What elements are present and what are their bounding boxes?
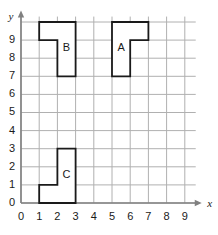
- x-axis-tick-label: 8: [164, 210, 170, 222]
- x-axis-tick-label: 2: [54, 210, 60, 222]
- x-axis-tick-label: 0: [18, 210, 24, 222]
- x-axis-tick-label: 9: [182, 210, 188, 222]
- x-axis-tick-label: 5: [109, 210, 115, 222]
- coordinate-plane-svg: 01234567891234567890xyBAC: [0, 0, 218, 235]
- x-axis-name-label: x: [206, 197, 212, 209]
- x-axis-arrow-icon: [195, 200, 202, 206]
- y-axis-tick-label: 7: [9, 69, 15, 81]
- y-axis-tick-label: 3: [9, 142, 15, 154]
- y-axis-arrow-icon: [18, 11, 24, 18]
- x-axis-tick-label: 7: [145, 210, 151, 222]
- y-axis-tick-label: 4: [9, 124, 15, 136]
- y-axis-tick-label: 2: [9, 160, 15, 172]
- x-axis-tick-label: 3: [73, 210, 79, 222]
- y-axis-name-label: y: [8, 10, 14, 22]
- origin-tick-label: 0: [9, 196, 15, 208]
- y-axis-tick-label: 5: [9, 105, 15, 117]
- x-axis-tick-label: 4: [91, 210, 97, 222]
- shape-label-a: A: [117, 41, 125, 53]
- shape-label-b: B: [63, 41, 70, 53]
- shape-label-c: C: [63, 168, 71, 180]
- y-axis-tick-label: 8: [9, 51, 15, 63]
- coordinate-grid-figure: 01234567891234567890xyBAC: [0, 0, 218, 235]
- y-axis-tick-label: 9: [9, 33, 15, 45]
- x-axis-tick-label: 6: [127, 210, 133, 222]
- y-axis-tick-label: 6: [9, 87, 15, 99]
- x-axis-tick-label: 1: [36, 210, 42, 222]
- y-axis-tick-label: 1: [9, 178, 15, 190]
